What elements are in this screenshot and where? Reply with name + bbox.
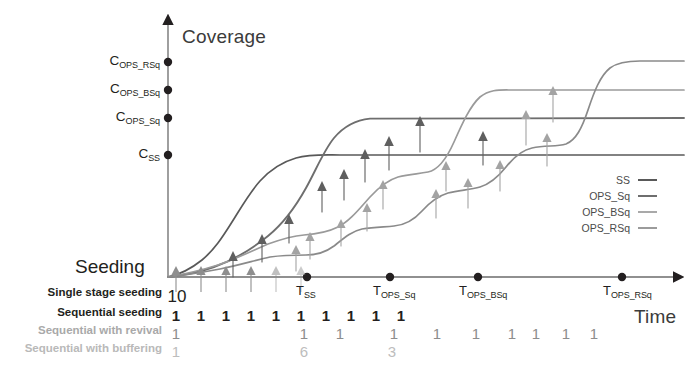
row-label-sequential-seeding: Sequential seeding bbox=[0, 307, 162, 319]
y-axis-title: Coverage bbox=[182, 27, 266, 46]
seed-count-sequential-8: 1 bbox=[366, 308, 386, 323]
seeding-section-title: Seeding bbox=[75, 257, 145, 276]
seed-count-sequential-1: 1 bbox=[191, 308, 211, 323]
row-label-sequential-with-buffering: Sequential with buffering bbox=[0, 343, 162, 355]
seed-count-sequential-5: 1 bbox=[291, 308, 311, 323]
seed-count-revival-2: 1 bbox=[330, 326, 350, 341]
seed-count-sequential-4: 1 bbox=[266, 308, 286, 323]
y-tick-label-ops-sq: COPS_Sq bbox=[60, 110, 160, 124]
x-axis-title: Time bbox=[634, 307, 676, 326]
seed-count-sequential-7: 1 bbox=[341, 308, 361, 323]
x-tick-label-t-ops-sq: TOPS_Sq bbox=[373, 284, 415, 297]
x-tick-label-t-ops-bsq: TOPS_BSq bbox=[459, 284, 507, 297]
row-label-single-stage-seeding: Single stage seeding bbox=[0, 287, 162, 299]
y-tick-base-ops-bsq: C bbox=[110, 81, 120, 96]
y-tick-label-ops-bsq: COPS_BSq bbox=[60, 82, 160, 96]
x-tick-sub-t-ops-sq: OPS_Sq bbox=[381, 290, 415, 300]
seed-count-revival-5: 1 bbox=[466, 326, 486, 341]
y-tick-base-ss: C bbox=[138, 146, 148, 161]
y-tick-sub-ops-sq: OPS_Sq bbox=[126, 116, 160, 126]
seed-count-buffering-0: 1 bbox=[166, 344, 186, 359]
chart-canvas: Coverage Time Seeding COPS_RSq COPS_BSq … bbox=[0, 0, 698, 377]
y-tick-label-ss: CSS bbox=[60, 147, 160, 161]
legend-swatches bbox=[638, 180, 657, 228]
seed-count-revival-8: 1 bbox=[556, 326, 576, 341]
seed-count-sequential-9: 1 bbox=[391, 308, 411, 323]
y-tick-label-ops-rsq: COPS_RSq bbox=[60, 54, 160, 68]
legend-label-ops-rsq: OPS_RSq bbox=[538, 223, 630, 234]
x-tick-sub-t-ss: SS bbox=[304, 290, 316, 300]
seed-count-sequential-3: 1 bbox=[241, 308, 261, 323]
seed-count-revival-6: 1 bbox=[502, 326, 522, 341]
x-tick-base-t-ops-sq: T bbox=[373, 283, 381, 298]
legend-label-ops-sq: OPS_Sq bbox=[538, 191, 630, 202]
seed-count-revival-4: 1 bbox=[427, 326, 447, 341]
row-label-sequential-with-revival: Sequential with revival bbox=[0, 325, 162, 337]
seed-count-revival-0: 1 bbox=[166, 326, 186, 341]
x-tick-label-t-ops-rsq: TOPS_RSq bbox=[603, 284, 652, 297]
y-tick-sub-ss: SS bbox=[148, 153, 160, 163]
seed-count-revival-9: 1 bbox=[584, 326, 604, 341]
y-tick-base-ops-rsq: C bbox=[109, 53, 119, 68]
seed-count-revival-7: 1 bbox=[526, 326, 546, 341]
legend-label-ss: SS bbox=[538, 175, 630, 186]
baseline-seeding-arrows bbox=[171, 266, 305, 292]
y-tick-base-ops-sq: C bbox=[116, 109, 126, 124]
seed-count-buffering-2: 3 bbox=[382, 344, 402, 359]
x-tick-sub-t-ops-rsq: OPS_RSq bbox=[611, 290, 652, 300]
legend-label-ops-bsq: OPS_BSq bbox=[538, 207, 630, 218]
seed-count-revival-1: 1 bbox=[294, 326, 314, 341]
seed-count-sequential-0: 1 bbox=[166, 308, 186, 323]
seed-count-sequential-6: 1 bbox=[316, 308, 336, 323]
x-tick-label-t-ss: TSS bbox=[296, 284, 316, 297]
seed-count-sequential-2: 1 bbox=[216, 308, 236, 323]
seed-count-single-stage-0: 10 bbox=[164, 288, 190, 305]
seed-count-buffering-1: 6 bbox=[294, 344, 314, 359]
series-line-ops-rsq bbox=[168, 61, 684, 277]
seed-count-revival-3: 1 bbox=[384, 326, 404, 341]
x-tick-sub-t-ops-bsq: OPS_BSq bbox=[467, 290, 507, 300]
y-tick-sub-ops-bsq: OPS_BSq bbox=[120, 88, 160, 98]
curve-seeding-arrows bbox=[228, 86, 557, 277]
x-tick-base-t-ops-bsq: T bbox=[459, 283, 467, 298]
x-tick-base-t-ss: T bbox=[296, 283, 304, 298]
y-tick-sub-ops-rsq: OPS_RSq bbox=[119, 60, 160, 70]
x-tick-base-t-ops-rsq: T bbox=[603, 283, 611, 298]
